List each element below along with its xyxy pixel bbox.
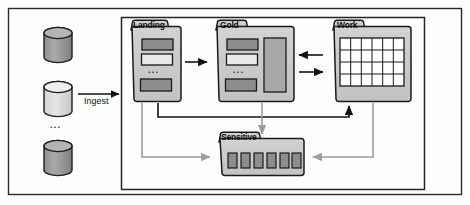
landing-to-work-arrow	[158, 103, 349, 117]
folder-label-work: Work	[337, 20, 357, 30]
folder-label-sensitive: Sensitive	[221, 132, 257, 142]
diagram-svg	[0, 0, 470, 205]
gold-tall-block	[264, 38, 286, 92]
landing-ellipsis: ...	[148, 65, 159, 75]
landing-to-sensitive-arrow	[142, 103, 210, 157]
folder-label-landing: Landing	[133, 20, 165, 30]
work-to-sensitive-arrow	[313, 103, 373, 157]
landing-block-2	[142, 54, 173, 65]
folder-gold[interactable]	[216, 20, 294, 101]
gold-block-2	[227, 54, 258, 65]
gold-block-1	[227, 39, 258, 50]
gold-block-3	[226, 79, 257, 91]
ingest-label: Ingest	[84, 96, 109, 106]
folder-landing[interactable]	[131, 20, 181, 101]
folder-work[interactable]	[333, 20, 411, 101]
gold-ellipsis: ...	[233, 65, 244, 75]
source-database-2	[44, 81, 72, 116]
source-ellipsis: ...	[50, 120, 61, 130]
source-database-3	[44, 140, 72, 175]
source-database-1	[44, 27, 72, 62]
landing-block-1	[142, 39, 173, 50]
landing-block-3	[141, 79, 172, 91]
folder-label-gold: Gold	[220, 20, 239, 30]
work-grid	[340, 38, 404, 86]
diagram-canvas: Landing Gold Work Sensitive Ingest ... .…	[0, 0, 470, 205]
